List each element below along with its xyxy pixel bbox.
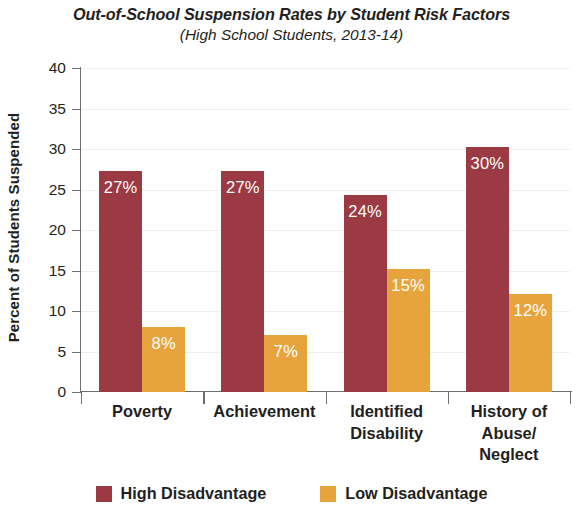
- x-axis-separator: [570, 392, 571, 404]
- x-axis-category-label: Achievement: [203, 401, 325, 423]
- legend: High DisadvantageLow Disadvantage: [0, 484, 583, 503]
- bar-value-label: 7%: [264, 342, 307, 361]
- legend-item[interactable]: High Disadvantage: [96, 484, 267, 503]
- y-tick-mark: [72, 190, 80, 191]
- legend-swatch-icon: [320, 486, 336, 502]
- y-tick-mark: [72, 271, 80, 272]
- y-tick-mark: [72, 352, 80, 353]
- bar: 8%: [142, 327, 185, 392]
- y-tick-label: 30: [22, 140, 66, 158]
- x-axis-category-label: History ofAbuse/Neglect: [448, 401, 570, 466]
- legend-swatch-icon: [96, 486, 112, 502]
- category-label-line: Abuse/: [448, 423, 570, 445]
- bar-value-label: 27%: [99, 178, 142, 197]
- category-label-line: History of: [448, 401, 570, 423]
- bar: 24%: [344, 195, 387, 392]
- bar: 30%: [466, 147, 509, 392]
- chart-title: Out-of-School Suspension Rates by Studen…: [0, 4, 583, 24]
- bar: 15%: [387, 269, 430, 392]
- bar: 27%: [99, 171, 142, 392]
- bar-value-label: 24%: [344, 202, 387, 221]
- bar: 12%: [509, 294, 552, 392]
- bar: 27%: [221, 171, 264, 392]
- y-tick-label: 35: [22, 100, 66, 118]
- legend-label: Low Disadvantage: [345, 484, 487, 503]
- bar-value-label: 12%: [509, 301, 552, 320]
- bar: 7%: [264, 335, 307, 392]
- category-label-line: Identified: [326, 401, 448, 423]
- y-tick-label: 15: [22, 262, 66, 280]
- y-tick-label: 10: [22, 302, 66, 320]
- y-tick-mark: [72, 68, 80, 69]
- category-label-line: Achievement: [203, 401, 325, 423]
- y-tick-mark: [72, 311, 80, 312]
- category-label-line: Disability: [326, 423, 448, 445]
- title-block: Out-of-School Suspension Rates by Studen…: [0, 4, 583, 45]
- plot-area: 27%8%27%7%24%15%30%12%: [81, 68, 570, 392]
- y-tick-label: 40: [22, 59, 66, 77]
- x-axis-category-label: IdentifiedDisability: [326, 401, 448, 444]
- category-label-line: Poverty: [81, 401, 203, 423]
- bar-value-label: 15%: [387, 276, 430, 295]
- gridline: [81, 68, 570, 69]
- y-tick-mark: [72, 109, 80, 110]
- bar-value-label: 8%: [142, 334, 185, 353]
- y-tick-label: 5: [22, 343, 66, 361]
- bar-value-label: 27%: [221, 178, 264, 197]
- y-tick-label: 0: [22, 383, 66, 401]
- y-tick-label: 25: [22, 181, 66, 199]
- chart-subtitle: (High School Students, 2013-14): [0, 24, 583, 45]
- legend-item[interactable]: Low Disadvantage: [320, 484, 487, 503]
- category-label-line: Neglect: [448, 444, 570, 466]
- y-tick-mark: [72, 392, 80, 393]
- legend-label: High Disadvantage: [121, 484, 267, 503]
- y-tick-mark: [72, 230, 80, 231]
- y-axis-title-text: Percent of Students Suspended: [6, 112, 23, 342]
- bar-value-label: 30%: [466, 154, 509, 173]
- x-axis-category-label: Poverty: [81, 401, 203, 423]
- y-tick-mark: [72, 149, 80, 150]
- gridline: [81, 109, 570, 110]
- chart-figure: Out-of-School Suspension Rates by Studen…: [0, 0, 583, 519]
- y-tick-label: 20: [22, 221, 66, 239]
